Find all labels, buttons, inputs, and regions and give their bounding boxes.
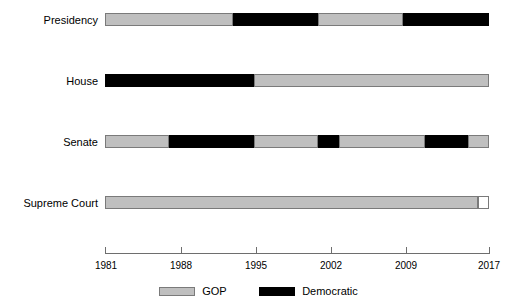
segment-gop	[339, 135, 425, 148]
segment-gop	[318, 13, 403, 26]
segment-gop	[468, 135, 489, 148]
timeline-chart: Presidency House Senate Supreme Court 19…	[0, 0, 517, 304]
timeline-track-house	[105, 74, 489, 87]
segment-democratic	[318, 135, 339, 148]
axis-tick	[406, 247, 407, 254]
timeline-track-senate	[105, 135, 489, 148]
segment-gop	[105, 196, 478, 209]
row-label-house: House	[0, 76, 98, 87]
axis-tick	[331, 247, 332, 254]
axis-tick	[181, 247, 182, 254]
segment-democratic	[105, 74, 254, 87]
segment-gop	[254, 74, 489, 87]
segment-gop	[105, 135, 169, 148]
legend-item-democratic: Democratic	[259, 282, 358, 300]
axis-tick	[105, 247, 106, 254]
legend-swatch-democratic-icon	[259, 287, 295, 296]
legend-item-gop: GOP	[159, 282, 226, 300]
segment-democratic	[169, 135, 254, 148]
segment-democratic	[233, 13, 318, 26]
timeline-track-supreme-court	[105, 196, 489, 209]
segment-vacant	[478, 196, 489, 209]
row-label-supreme-court: Supreme Court	[0, 198, 98, 209]
axis-tick-label-1995: 1995	[236, 261, 276, 271]
axis-line	[105, 253, 490, 254]
axis-tick-label-1988: 1988	[161, 261, 201, 271]
legend-label-gop: GOP	[202, 286, 226, 297]
segment-democratic	[403, 13, 489, 26]
legend-label-democratic: Democratic	[302, 286, 358, 297]
row-label-presidency: Presidency	[0, 15, 98, 26]
axis-tick	[256, 247, 257, 254]
axis-tick-label-2002: 2002	[311, 261, 351, 271]
chart-legend: GOP Democratic	[0, 281, 517, 300]
segment-democratic	[425, 135, 468, 148]
timeline-track-presidency	[105, 13, 489, 26]
segment-gop	[254, 135, 318, 148]
axis-tick-label-2009: 2009	[386, 261, 426, 271]
axis-tick-label-1981: 1981	[86, 261, 126, 271]
segment-gop	[105, 13, 233, 26]
row-label-senate: Senate	[0, 137, 98, 148]
axis-tick-label-2017: 2017	[469, 261, 509, 271]
axis-tick	[489, 247, 490, 254]
legend-swatch-gop-icon	[159, 287, 195, 296]
